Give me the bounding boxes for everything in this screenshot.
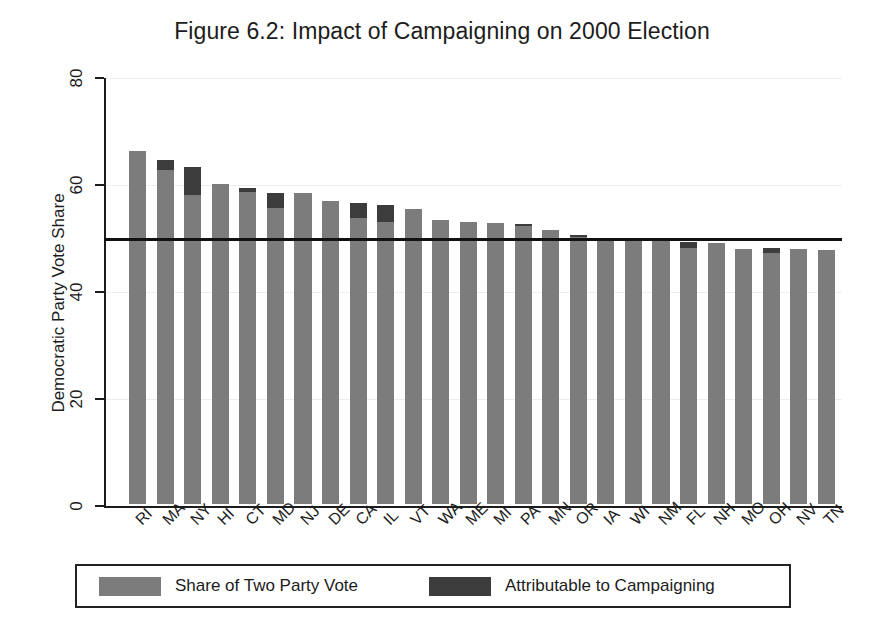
legend-entry-0[interactable]: Share of Two Party Vote — [99, 566, 358, 606]
bar-WA[interactable] — [432, 220, 449, 504]
bar-OH[interactable] — [763, 248, 780, 504]
bar-segment-share-of-two-party-vote — [818, 250, 835, 504]
legend-swatch-0 — [99, 577, 161, 596]
bar-CA[interactable] — [350, 203, 367, 504]
bar-segment-share-of-two-party-vote — [157, 170, 174, 504]
y-tick-label: 20 — [62, 390, 92, 408]
bar-segment-share-of-two-party-vote — [597, 238, 614, 504]
legend-label-0: Share of Two Party Vote — [175, 576, 358, 596]
bar-segment-share-of-two-party-vote — [405, 209, 422, 504]
bar-segment-share-of-two-party-vote — [322, 201, 339, 504]
y-tick-label-text: 40 — [68, 277, 86, 307]
y-tick-label-text: 60 — [68, 170, 86, 200]
bar-VT[interactable] — [405, 209, 422, 504]
bar-segment-share-of-two-party-vote — [625, 238, 642, 504]
bar-segment-attributable-to-campaigning — [267, 193, 284, 208]
bar-RI[interactable] — [129, 151, 146, 504]
legend-swatch-1 — [429, 577, 491, 596]
bar-segment-share-of-two-party-vote — [432, 220, 449, 504]
bar-NV[interactable] — [790, 249, 807, 504]
bar-segment-attributable-to-campaigning — [377, 205, 394, 221]
bar-segment-attributable-to-campaigning — [239, 188, 256, 192]
bar-segment-share-of-two-party-vote — [790, 249, 807, 504]
bar-FL[interactable] — [680, 242, 697, 504]
y-tick-label-text: 20 — [68, 384, 86, 414]
bar-segment-share-of-two-party-vote — [212, 184, 229, 504]
bar-MA[interactable] — [157, 160, 174, 504]
bar-TN[interactable] — [818, 250, 835, 504]
bar-MO[interactable] — [735, 249, 752, 504]
bar-OR[interactable] — [570, 235, 587, 504]
bar-segment-share-of-two-party-vote — [515, 226, 532, 504]
bar-NH[interactable] — [708, 243, 725, 504]
gridline — [106, 78, 842, 79]
bar-segment-attributable-to-campaigning — [350, 203, 367, 218]
chart-legend: Share of Two Party VoteAttributable to C… — [75, 564, 791, 608]
bar-CT[interactable] — [239, 188, 256, 504]
y-tick-mark — [95, 77, 104, 79]
bar-NM[interactable] — [652, 239, 669, 504]
bar-ME[interactable] — [460, 222, 477, 504]
bar-segment-share-of-two-party-vote — [129, 151, 146, 504]
bar-DE[interactable] — [322, 201, 339, 504]
bar-segment-share-of-two-party-vote — [708, 243, 725, 504]
bar-segment-attributable-to-campaigning — [157, 160, 174, 170]
legend-label-1: Attributable to Campaigning — [505, 576, 715, 596]
y-tick-mark — [95, 505, 104, 507]
bar-segment-share-of-two-party-vote — [377, 222, 394, 504]
bar-WI[interactable] — [625, 238, 642, 504]
y-tick-label-text: 0 — [68, 491, 86, 521]
bar-segment-share-of-two-party-vote — [184, 195, 201, 504]
y-tick-label: 40 — [62, 283, 92, 301]
y-tick-label: 0 — [62, 497, 92, 515]
bar-segment-attributable-to-campaigning — [680, 242, 697, 247]
bar-segment-attributable-to-campaigning — [763, 248, 780, 253]
bar-segment-share-of-two-party-vote — [763, 253, 780, 504]
bar-IA[interactable] — [597, 238, 614, 504]
bar-HI[interactable] — [212, 184, 229, 504]
bar-segment-share-of-two-party-vote — [487, 223, 504, 504]
y-tick-label-text: 80 — [68, 63, 86, 93]
bar-segment-share-of-two-party-vote — [570, 237, 587, 504]
bar-segment-share-of-two-party-vote — [652, 239, 669, 504]
bar-MN[interactable] — [542, 230, 559, 504]
bar-MI[interactable] — [487, 223, 504, 504]
bar-segment-share-of-two-party-vote — [460, 222, 477, 504]
figure-container: Figure 6.2: Impact of Campaigning on 200… — [0, 0, 884, 627]
bar-segment-share-of-two-party-vote — [350, 218, 367, 504]
bar-PA[interactable] — [515, 224, 532, 504]
plot-area: 020406080 RIMANYHICTMDNJDECAILVTWAMEMIPA… — [104, 78, 842, 506]
y-tick-mark — [95, 398, 104, 400]
bar-segment-attributable-to-campaigning — [184, 167, 201, 195]
bar-NY[interactable] — [184, 167, 201, 504]
page-title: Figure 6.2: Impact of Campaigning on 200… — [0, 18, 884, 45]
bar-segment-share-of-two-party-vote — [680, 248, 697, 504]
legend-entry-1[interactable]: Attributable to Campaigning — [429, 566, 715, 606]
bar-segment-share-of-two-party-vote — [735, 249, 752, 504]
y-tick-label: 60 — [62, 176, 92, 194]
y-tick-mark — [95, 291, 104, 293]
bar-IL[interactable] — [377, 205, 394, 504]
bar-segment-attributable-to-campaigning — [515, 224, 532, 226]
bar-segment-share-of-two-party-vote — [542, 230, 559, 504]
reference-line-50 — [104, 238, 842, 241]
y-tick-label: 80 — [62, 69, 92, 87]
y-tick-mark — [95, 184, 104, 186]
bar-segment-share-of-two-party-vote — [267, 208, 284, 504]
